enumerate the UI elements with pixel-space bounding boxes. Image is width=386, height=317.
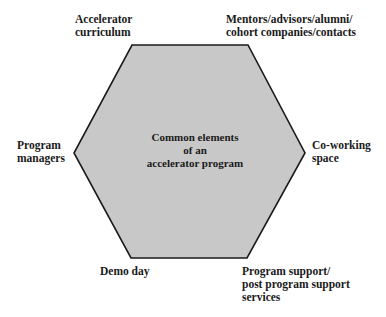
label-line: services — [242, 291, 350, 304]
center-label-line-2: of an — [130, 144, 260, 157]
label-line: post program support — [242, 278, 350, 291]
label-line: cohort companies/contacts — [226, 26, 356, 39]
label-line: Mentors/advisors/alumni/ — [226, 13, 356, 26]
label-accelerator-curriculum: Accelerator curriculum — [75, 13, 132, 39]
label-line: space — [312, 152, 371, 165]
label-program-support: Program support/ post program support se… — [242, 265, 350, 304]
center-label-line-1: Common elements — [130, 131, 260, 144]
label-line: managers — [17, 152, 65, 165]
label-line: Program support/ — [242, 265, 350, 278]
label-mentors-advisors: Mentors/advisors/alumni/ cohort companie… — [226, 13, 356, 39]
label-program-managers: Program managers — [17, 139, 65, 165]
center-label-line-3: accelerator program — [130, 157, 260, 170]
label-line: Demo day — [100, 265, 150, 278]
center-label: Common elements of an accelerator progra… — [130, 131, 260, 170]
label-demo-day: Demo day — [100, 265, 150, 278]
label-co-working-space: Co-working space — [312, 139, 371, 165]
label-line: Accelerator — [75, 13, 132, 26]
label-line: Co-working — [312, 139, 371, 152]
label-line: Program — [17, 139, 65, 152]
label-line: curriculum — [75, 26, 132, 39]
